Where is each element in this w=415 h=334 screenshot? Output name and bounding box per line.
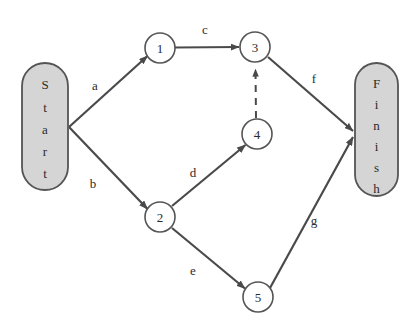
node-4: 4: [242, 119, 272, 149]
start-letter-1: t: [43, 100, 47, 115]
finish-letter-4: s: [374, 160, 379, 175]
node-5: 5: [243, 282, 273, 312]
node-3-label: 3: [252, 40, 259, 55]
edge-a: [69, 56, 148, 127]
edge-b: [69, 127, 148, 209]
edge-c: [175, 47, 239, 48]
node-1: 1: [145, 33, 175, 63]
diagram-canvas: S t a r t F i n i s h 1 2 3: [0, 0, 415, 334]
edge-label-g: g: [311, 213, 318, 228]
edge-label-b: b: [90, 176, 97, 191]
edge-labels-layer: a b c d e f g: [90, 22, 318, 278]
network-diagram: S t a r t F i n i s h 1 2 3: [0, 0, 415, 334]
finish-letter-2: n: [373, 118, 380, 133]
edge-dummy-dashed: [256, 69, 257, 118]
edge-f: [268, 57, 353, 131]
edge-label-a: a: [92, 78, 98, 93]
finish-letter-0: F: [373, 76, 380, 91]
edge-label-d: d: [190, 165, 197, 180]
node-2: 2: [145, 202, 175, 232]
edge-e: [172, 228, 245, 289]
node-4-label: 4: [254, 127, 261, 142]
edges-layer: [69, 47, 353, 289]
start-letter-3: r: [43, 144, 48, 159]
finish-letter-1: i: [375, 97, 379, 112]
edge-label-e: e: [190, 263, 196, 278]
edge-d: [172, 145, 246, 206]
node-1-label: 1: [157, 41, 164, 56]
terminal-start: S t a r t: [22, 63, 68, 190]
start-letter-0: S: [41, 77, 48, 92]
edge-label-c: c: [202, 22, 208, 37]
edge-label-f: f: [312, 71, 317, 86]
start-letter-2: a: [42, 122, 48, 137]
start-letter-4: t: [43, 166, 47, 181]
finish-letter-5: h: [373, 181, 380, 196]
node-3: 3: [240, 32, 270, 62]
finish-letter-3: i: [375, 139, 379, 154]
node-2-label: 2: [157, 210, 164, 225]
terminal-finish: F i n i s h: [355, 63, 398, 196]
node-5-label: 5: [255, 290, 262, 305]
